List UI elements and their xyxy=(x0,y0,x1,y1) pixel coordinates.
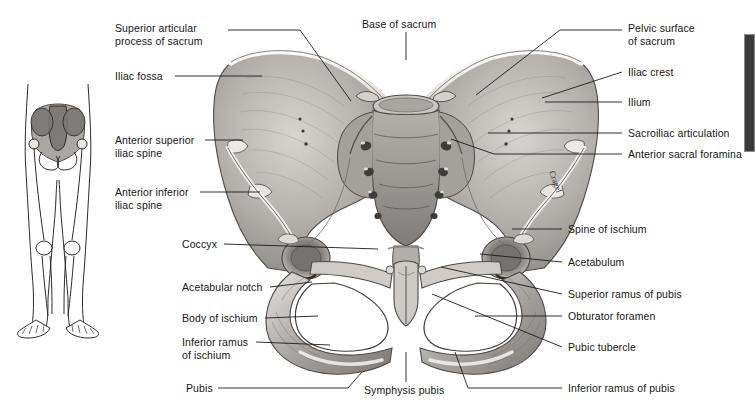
label-line: iliac spine xyxy=(115,147,194,160)
label-line: Inferior ramus xyxy=(182,336,248,349)
label-line: Ilium xyxy=(628,96,651,109)
label-base-of-sacrum: Base of sacrum xyxy=(362,18,436,31)
label-anterior-inferior-iliac-spine: Anterior inferioriliac spine xyxy=(115,186,188,211)
label-line: Obturator foramen xyxy=(568,310,656,323)
label-coccyx: Coccyx xyxy=(182,238,217,251)
symphysis-pubis xyxy=(394,261,418,326)
label-line: Pubis xyxy=(186,382,213,395)
label-iliac-fossa: Iliac fossa xyxy=(115,70,163,83)
label-line: Acetabular notch xyxy=(182,281,262,294)
label-obturator-foramen: Obturator foramen xyxy=(568,310,656,323)
label-line: Superior ramus of pubis xyxy=(568,288,682,301)
pelvis-bone-group xyxy=(214,51,599,374)
label-inferior-ramus-of-pubis: Inferior ramus of pubis xyxy=(568,382,675,395)
label-body-of-ischium: Body of ischium xyxy=(182,312,258,325)
label-line: of ischium xyxy=(182,349,248,362)
label-spine-of-ischium: Spine of ischium xyxy=(568,223,647,236)
label-line: Acetabulum xyxy=(568,256,624,269)
label-superior-articular-process-of-sacrum: Superior articularprocess of sacrum xyxy=(115,22,202,47)
label-line: Inferior ramus of pubis xyxy=(568,382,675,395)
label-ilium: Ilium xyxy=(628,96,651,109)
label-acetabular-notch: Acetabular notch xyxy=(182,281,262,294)
label-line: Anterior inferior xyxy=(115,186,188,199)
label-pubis: Pubis xyxy=(186,382,213,395)
label-line: Anterior sacral foramina xyxy=(628,148,742,161)
label-line: process of sacrum xyxy=(115,35,202,48)
label-line: of sacrum xyxy=(628,35,695,48)
label-anterior-superior-iliac-spine: Anterior superioriliac spine xyxy=(115,134,194,159)
hip-bone-left xyxy=(266,234,392,374)
label-anterior-sacral-foramina: Anterior sacral foramina xyxy=(628,148,742,161)
label-line: Sacroiliac articulation xyxy=(628,127,730,140)
figure-canvas: Cragel xyxy=(0,0,755,412)
label-line: Base of sacrum xyxy=(362,18,436,31)
page-edge-marker xyxy=(744,34,755,152)
label-pubic-tubercle: Pubic tubercle xyxy=(568,341,636,354)
hip-bone-right xyxy=(420,234,546,374)
label-sacroiliac-articulation: Sacroiliac articulation xyxy=(628,127,730,140)
label-inferior-ramus-of-ischium: Inferior ramusof ischium xyxy=(182,336,248,361)
label-line: Iliac fossa xyxy=(115,70,163,83)
label-line: Pubic tubercle xyxy=(568,341,636,354)
label-pelvic-surface-of-sacrum: Pelvic surfaceof sacrum xyxy=(628,22,695,47)
label-iliac-crest: Iliac crest xyxy=(628,66,673,79)
label-line: Coccyx xyxy=(182,238,217,251)
label-line: Symphysis pubis xyxy=(364,384,444,397)
label-line: Anterior superior xyxy=(115,134,194,147)
label-line: Pelvic surface xyxy=(628,22,695,35)
lower-limb-skeleton-orientation-figure xyxy=(6,76,110,344)
label-symphysis-pubis: Symphysis pubis xyxy=(364,384,444,397)
label-line: Body of ischium xyxy=(182,312,258,325)
label-superior-ramus-of-pubis: Superior ramus of pubis xyxy=(568,288,682,301)
pelvis-illustration: Cragel xyxy=(0,0,755,412)
label-line: iliac spine xyxy=(115,199,188,212)
label-line: Spine of ischium xyxy=(568,223,647,236)
label-line: Superior articular xyxy=(115,22,202,35)
label-acetabulum: Acetabulum xyxy=(568,256,624,269)
label-line: Iliac crest xyxy=(628,66,673,79)
